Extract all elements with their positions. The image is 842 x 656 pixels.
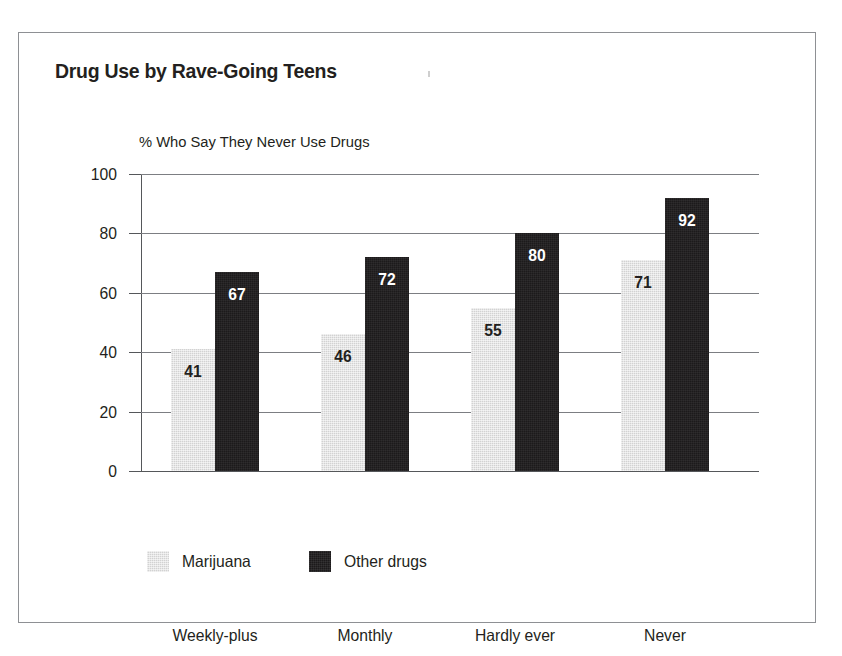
y-axis-label-60: 60: [60, 283, 117, 302]
plot-area: 020406080100 4167467255807192 Weekly-plu…: [141, 174, 759, 471]
bar-marijuana-hardly-ever: 55: [471, 308, 515, 471]
bar-value-label: 46: [322, 348, 364, 365]
y-tick-40: [129, 352, 141, 353]
legend-label: Marijuana: [182, 552, 251, 571]
bar-marijuana-never: 71: [621, 260, 665, 471]
gridline-0: [141, 471, 759, 472]
scan-artifact: [428, 71, 430, 77]
y-axis-label-100: 100: [60, 165, 117, 184]
legend-label: Other drugs: [344, 552, 427, 571]
bar-value-label: 67: [216, 286, 258, 303]
bar-other-drugs-never: 92: [665, 198, 709, 471]
y-axis-label-20: 20: [60, 402, 117, 421]
x-axis-label-hardly-ever: Hardly ever: [430, 626, 601, 645]
y-tick-60: [129, 293, 141, 294]
chart-legend: MarijuanaOther drugs: [147, 551, 432, 572]
y-tick-0: [129, 471, 141, 472]
bar-value-label: 80: [516, 247, 558, 264]
x-axis-label-never: Never: [580, 626, 751, 645]
legend-item-other-drugs[interactable]: Other drugs: [309, 551, 431, 572]
bar-other-drugs-weekly-plus: 67: [215, 272, 259, 471]
bar-marijuana-monthly: 46: [321, 334, 365, 471]
gridline-100: [141, 174, 759, 175]
legend-swatch-icon: [309, 551, 331, 572]
bar-other-drugs-monthly: 72: [365, 257, 409, 471]
y-tick-80: [129, 233, 141, 234]
y-axis-label-0: 0: [60, 462, 117, 481]
bar-value-label: 72: [366, 271, 408, 288]
bar-value-label: 71: [622, 274, 664, 291]
bar-value-label: 55: [472, 322, 514, 339]
chart-subtitle: % Who Say They Never Use Drugs: [139, 133, 370, 151]
bar-value-label: 92: [666, 212, 708, 229]
chart-title: Drug Use by Rave-Going Teens: [55, 59, 337, 83]
y-axis-label-40: 40: [60, 343, 117, 362]
y-axis-line: [141, 174, 142, 471]
y-axis-label-80: 80: [60, 224, 117, 243]
bar-other-drugs-hardly-ever: 80: [515, 233, 559, 471]
y-tick-100: [129, 174, 141, 175]
x-axis-label-weekly-plus: Weekly-plus: [130, 626, 301, 645]
x-axis-label-monthly: Monthly: [280, 626, 451, 645]
legend-item-marijuana[interactable]: Marijuana: [147, 551, 254, 572]
bar-value-label: 41: [172, 363, 214, 380]
y-tick-20: [129, 412, 141, 413]
bar-marijuana-weekly-plus: 41: [171, 349, 215, 471]
figure-frame: Drug Use by Rave-Going Teens % Who Say T…: [18, 32, 816, 623]
legend-swatch-icon: [147, 551, 169, 572]
